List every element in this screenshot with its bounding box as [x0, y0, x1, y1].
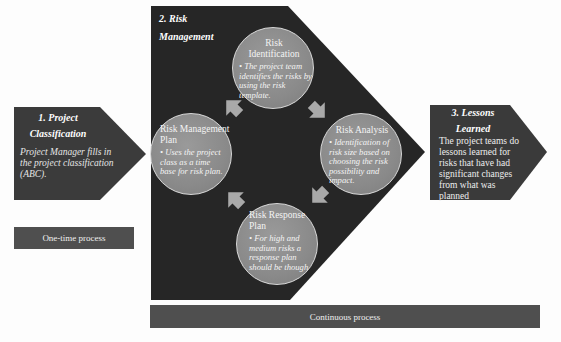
lessons-learned-body: The project teams do lessons learned for… — [439, 136, 523, 202]
circle-title: Risk Response Plan — [249, 210, 313, 232]
title-line: 3. Lessons — [436, 105, 510, 121]
title-line: Management — [159, 28, 239, 46]
circle-bullet: • The project team identifies the risks … — [239, 62, 313, 100]
circle-bullet: • Uses the project class as a time base … — [160, 148, 226, 177]
circle-title: Risk Management Plan — [160, 124, 230, 146]
circle-bullet: • For high and medium risks a response p… — [249, 234, 309, 272]
risk-management-plan-circle: Risk Management Plan • Uses the project … — [150, 113, 232, 195]
circle-title: Risk Analysis — [325, 125, 399, 136]
circle-title: Risk Identification — [243, 38, 305, 60]
risk-identification-circle: Risk Identification • The project team i… — [232, 27, 314, 109]
title-line: 1. Project — [18, 110, 98, 126]
one-time-process-bar: One-time process — [14, 227, 134, 249]
continuous-process-bar: Continuous process — [150, 305, 540, 328]
bullet-text: For high and medium risks a response pla… — [249, 233, 308, 272]
risk-response-plan-circle: Risk Response Plan • For high and medium… — [236, 203, 318, 285]
bullet-text: The project team identifies the risks by… — [239, 61, 312, 100]
bullet-text: Identification of risk size based on cho… — [329, 137, 390, 185]
title-line: Learned — [436, 121, 510, 137]
title-line: Classification — [18, 126, 98, 142]
title-line: 2. Risk — [159, 10, 239, 28]
risk-analysis-circle: Risk Analysis • Identification of risk s… — [320, 113, 402, 195]
lessons-learned-title: 3. Lessons Learned — [436, 105, 510, 137]
circle-bullet: • Identification of risk size based on c… — [329, 138, 399, 186]
project-classification-title: 1. Project Classification — [18, 110, 98, 142]
bullet-text: Uses the project class as a time base fo… — [160, 147, 223, 176]
risk-management-title: 2. Risk Management — [159, 10, 239, 46]
project-classification-body: Project Manager fills in the project cla… — [20, 147, 120, 180]
